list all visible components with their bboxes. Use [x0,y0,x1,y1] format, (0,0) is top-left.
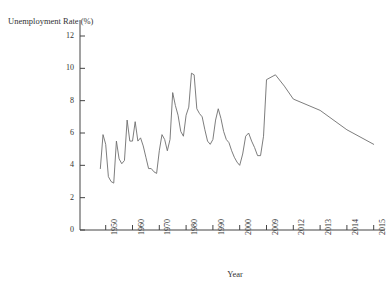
x-tick-label: 2013 [324,219,333,235]
x-tick-label: 1950 [110,219,119,235]
y-tick-label: 10 [52,63,74,72]
x-tick-label: 1970 [163,219,172,235]
y-tick-label: 0 [52,225,74,234]
x-tick-label: 2009 [271,219,280,235]
y-tick-label: 4 [52,160,74,169]
x-tick-label: 1980 [190,219,199,235]
chart-container: Unemployment Rate (%) Year 024681012 195… [0,0,392,294]
x-tick-label: 2014 [351,219,360,235]
x-tick-label: 2000 [244,219,253,235]
y-tick-label: 8 [52,96,74,105]
x-tick-label: 2012 [297,219,306,235]
x-tick-label: 1990 [217,219,226,235]
unemployment-rate-line [100,73,373,183]
x-tick-label: 2015 [378,219,387,235]
chart-svg [0,0,392,294]
y-tick-label: 12 [52,31,74,40]
y-tick-label: 6 [52,128,74,137]
chart-axes [80,20,385,230]
y-tick-label: 2 [52,193,74,202]
x-tick-label: 1960 [137,219,146,235]
y-axis-ticks [80,36,85,230]
